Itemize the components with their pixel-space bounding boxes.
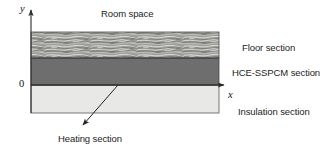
insulation-layer-rect	[31, 85, 219, 113]
y-axis-label: y	[20, 4, 25, 15]
floor-layer-rect	[31, 32, 219, 58]
label-hce-sspcm-section: HCE-SSPCM section	[232, 68, 320, 78]
label-heating-section: Heating section	[58, 134, 122, 144]
label-insulation-section: Insulation section	[238, 107, 310, 117]
layer-stack	[31, 32, 219, 113]
label-floor-section: Floor section	[242, 43, 295, 53]
hce-sspcm-layer-rect	[31, 58, 219, 85]
label-room-space: Room space	[101, 9, 153, 19]
origin-label: 0	[19, 79, 24, 90]
x-axis-label: x	[228, 90, 233, 101]
diagram-canvas: Room space Floor section HCE-SSPCM secti…	[0, 0, 328, 152]
